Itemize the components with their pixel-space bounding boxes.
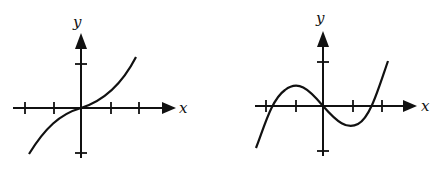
left-x-label: x — [179, 99, 188, 117]
left-y-label: y — [72, 13, 82, 31]
left-y-arrow-icon — [75, 33, 87, 49]
right-graph — [255, 31, 417, 156]
right-x-label: x — [421, 97, 430, 115]
right-y-label: y — [315, 9, 325, 27]
left-curve — [29, 57, 136, 154]
right-x-arrow-icon — [403, 100, 417, 112]
right-y-arrow-icon — [317, 31, 329, 47]
left-x-arrow-icon — [162, 102, 176, 114]
left-graph — [13, 33, 176, 158]
diagram-canvas: y x y x — [0, 0, 433, 174]
